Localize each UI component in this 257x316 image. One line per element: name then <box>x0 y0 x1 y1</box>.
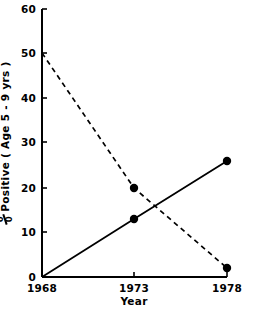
marker-rising-1978 <box>223 157 231 165</box>
marker-falling-1973 <box>130 184 138 192</box>
percent-glyph: 0 0 <box>0 214 13 225</box>
y-tick-label-0: 0 <box>0 272 36 283</box>
chart-figure: 60 50 40 30 20 10 0 1968 1973 1978 Year … <box>0 0 257 316</box>
series-markers <box>130 157 231 272</box>
x-tick-label-1973: 1973 <box>119 283 149 294</box>
y-axis-title: 0 0 Positive ( Age 5 - 9 yrs ) <box>0 61 13 224</box>
y-axis-title-text: Positive ( Age 5 - 9 yrs ) <box>0 61 11 211</box>
percent-glyph-bottom: 0 <box>6 216 13 222</box>
y-axis-title-wrapper: 0 0 Positive ( Age 5 - 9 yrs ) <box>0 33 13 253</box>
marker-rising-1973 <box>130 215 138 223</box>
x-tick-label-1968: 1968 <box>27 283 57 294</box>
series-falling-line <box>42 53 227 268</box>
y-tick-label-60: 60 <box>0 4 36 15</box>
x-tick-label-1978: 1978 <box>212 283 242 294</box>
x-axis-title: Year <box>120 295 147 307</box>
chart-plot-area <box>0 0 257 316</box>
marker-falling-1978 <box>223 264 231 272</box>
